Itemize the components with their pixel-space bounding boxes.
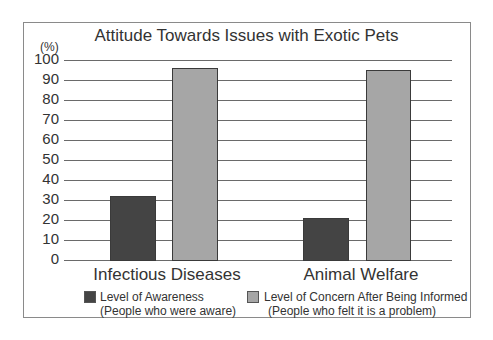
legend-label-awareness: Level of Awareness [100,290,204,304]
y-tick-label-20: 20 [19,211,59,227]
y-tick-label-30: 30 [19,191,59,207]
bar-animal-welfare-concern [366,70,411,261]
category-label-infectious-diseases: Infectious Diseases [82,265,252,285]
y-tick-label-100: 100 [19,51,59,67]
legend-swatch-concern [247,291,259,303]
y-tick-label-10: 10 [19,231,59,247]
chart-title: Attitude Towards Issues with Exotic Pets [0,26,493,46]
legend-label-concern: Level of Concern After Being Informed [264,290,467,304]
y-tick-label-70: 70 [19,111,59,127]
gridline-100 [64,60,452,61]
y-tick-label-0: 0 [19,251,59,267]
bar-animal-welfare-awareness [303,218,349,261]
legend-sublabel-awareness: (People who were aware) [100,304,236,318]
y-tick-label-40: 40 [19,171,59,187]
bar-infectious-diseases-concern [172,68,218,261]
y-tick-label-50: 50 [19,151,59,167]
y-tick-label-60: 60 [19,131,59,147]
bar-infectious-diseases-awareness [110,196,156,261]
legend-sublabel-concern: (People who felt it is a problem) [268,304,436,318]
category-label-animal-welfare: Animal Welfare [276,265,446,285]
y-tick-label-90: 90 [19,71,59,87]
y-tick-label-80: 80 [19,91,59,107]
legend-swatch-awareness [84,291,96,303]
